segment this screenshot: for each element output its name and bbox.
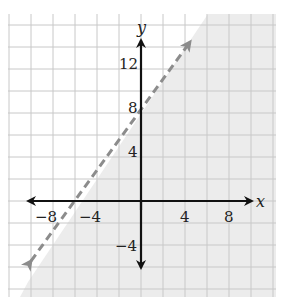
y-tick-label: 8: [128, 99, 138, 117]
y-axis-label: y: [136, 18, 147, 37]
x-tick-label: 8: [224, 208, 234, 226]
y-tick-label: −4: [115, 237, 137, 255]
shaded-region: [20, 14, 276, 297]
x-axis-label: x: [256, 192, 265, 211]
x-tick-label: −8: [35, 208, 57, 226]
inequality-graph: x y −8 −4 4 8 12 8 4 −4: [0, 0, 285, 303]
y-tick-label: 4: [128, 143, 138, 161]
x-tick-label: 4: [180, 208, 190, 226]
y-tick-label: 12: [119, 55, 138, 73]
x-tick-label: −4: [79, 208, 101, 226]
